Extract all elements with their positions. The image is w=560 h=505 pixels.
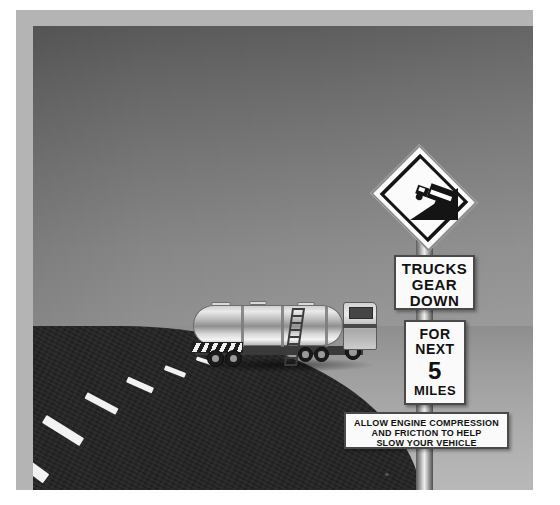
cab-window	[349, 307, 373, 319]
distance-line-for: FOR	[406, 327, 464, 342]
ground-speck	[385, 473, 389, 476]
tank-hatch	[297, 302, 315, 306]
illustration-scene: TRUCKS GEAR DOWN FOR NEXT 5 MILES ALLOW …	[33, 26, 533, 490]
gear-line-1: TRUCKS	[396, 261, 473, 277]
trailer-wheel	[314, 347, 329, 362]
tank-ring	[241, 306, 244, 347]
gear-line-3: DOWN	[396, 293, 473, 309]
advisory-line-3: SLOW YOUR VEHICLE	[346, 438, 507, 448]
advisory-line-1: ALLOW ENGINE COMPRESSION	[346, 418, 507, 428]
sign-for-next-5-miles: FOR NEXT 5 MILES	[404, 320, 466, 405]
sign-trucks-gear-down: TRUCKS GEAR DOWN	[394, 255, 475, 310]
advisory-line-2: AND FRICTION TO HELP	[346, 428, 507, 438]
cab-stripe	[343, 324, 377, 328]
truck-on-downgrade-icon	[406, 180, 464, 224]
gear-line-2: GEAR	[396, 277, 473, 293]
tank-barrel	[193, 305, 343, 346]
distance-number: 5	[406, 358, 464, 383]
warning-sign-diamond	[364, 150, 484, 248]
sign-advisory-plaque: ALLOW ENGINE COMPRESSION AND FRICTION TO…	[344, 412, 509, 449]
tanker-truck	[185, 294, 385, 390]
trailer-wheel	[207, 350, 224, 367]
trailer-wheel	[298, 347, 313, 362]
photo-frame: TRUCKS GEAR DOWN FOR NEXT 5 MILES ALLOW …	[16, 10, 533, 490]
screenshot-root: TRUCKS GEAR DOWN FOR NEXT 5 MILES ALLOW …	[0, 0, 560, 505]
tank-ring	[325, 306, 328, 347]
tank-ring	[281, 306, 284, 347]
tank-hatch	[211, 302, 231, 306]
trailer-wheel	[225, 350, 242, 367]
tank-hatch	[249, 301, 267, 305]
distance-unit: MILES	[406, 383, 464, 399]
distance-line-next: NEXT	[406, 342, 464, 357]
